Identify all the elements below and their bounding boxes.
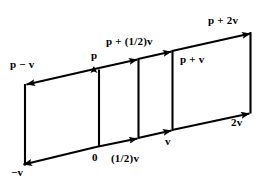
label-p-plus-v: p + v [180,54,204,65]
bottom-seg-origin-to-halfv [96,139,138,148]
figure-canvas: p − v p p + (1/2)v p + v p + 2v −v 0 (1/… [0,0,276,186]
label-minus-v: −v [11,167,23,178]
label-v: v [165,136,171,147]
top-seg-phalfv-to-pv [138,52,172,60]
label-2v: 2v [231,117,242,128]
label-p-minus-v: p − v [10,59,34,70]
top-seg-p-to-pminusv [27,68,100,85]
bottom-seg-origin-to-minusv [24,147,97,165]
label-p-plus-2v: p + 2v [208,15,238,26]
label-p-plus-half-v: p + (1/2)v [106,36,153,47]
label-p: p [91,50,97,61]
label-half-v: (1/2)v [111,153,139,164]
top-seg-pv-to-p2v [172,34,251,52]
label-origin: 0 [92,152,98,163]
top-seg-p-to-phalfv [99,60,138,69]
